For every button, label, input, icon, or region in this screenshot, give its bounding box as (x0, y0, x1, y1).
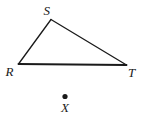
geometry-canvas (0, 0, 156, 121)
vertex-label-r: R (6, 65, 14, 78)
edge-ST (51, 20, 127, 66)
edge-RS (19, 20, 52, 65)
triangle-RST (19, 20, 127, 66)
vertex-label-t: T (128, 66, 135, 79)
point-x-dot (62, 94, 67, 99)
geometry-figure: R S T X (0, 0, 156, 121)
edge-RT (19, 64, 127, 65)
point-label-x: X (61, 101, 69, 114)
vertex-label-s: S (44, 4, 51, 17)
